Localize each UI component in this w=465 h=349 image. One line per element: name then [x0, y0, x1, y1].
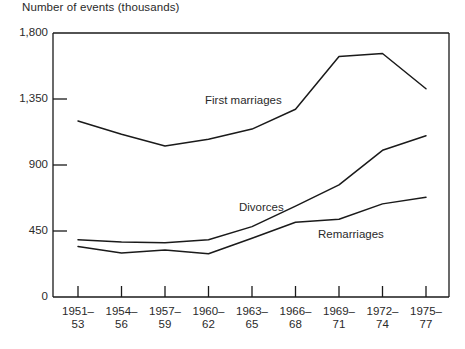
series-label-divorces: Divorces [239, 201, 284, 213]
y-tick-label: 1,800 [4, 26, 48, 38]
x-tick-label-top: 1975– [398, 305, 454, 318]
y-tick-label: 1,350 [4, 92, 48, 104]
y-tick-label: 450 [4, 224, 48, 236]
x-tick-label-bottom: 77 [398, 318, 454, 331]
series-label-first-marriages: First marriages [205, 94, 282, 106]
chart-plot-area [0, 0, 465, 349]
series-label-remarriages: Remarriages [318, 228, 384, 240]
x-tick-label: 1975–77 [398, 305, 454, 331]
series-line-divorces [78, 136, 426, 243]
y-tick-label: 0 [4, 290, 48, 302]
chart-figure: Number of events (thousands) 04509001,35… [0, 0, 465, 349]
y-tick-label: 900 [4, 158, 48, 170]
